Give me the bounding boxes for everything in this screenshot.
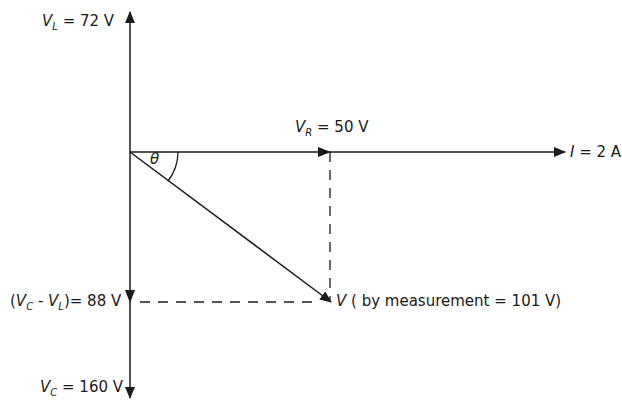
vl-label: VL = 72 V [42, 14, 114, 32]
v-label: V ( by measurement = 101 V) [336, 294, 561, 309]
vc-label: VC = 160 V [40, 380, 123, 398]
vr-label: VR = 50 V [295, 120, 368, 138]
current-label: I = 2 A [570, 145, 621, 160]
v-resultant-phasor [130, 152, 331, 302]
vc-minus-vl-arrowhead [125, 290, 135, 303]
theta-arc [168, 152, 178, 181]
phasor-diagram [0, 0, 622, 418]
theta-label: θ [150, 152, 159, 167]
vc-minus-vl-label: (VC - VL)= 88 V [10, 294, 121, 312]
vr-arrowhead [318, 147, 331, 157]
